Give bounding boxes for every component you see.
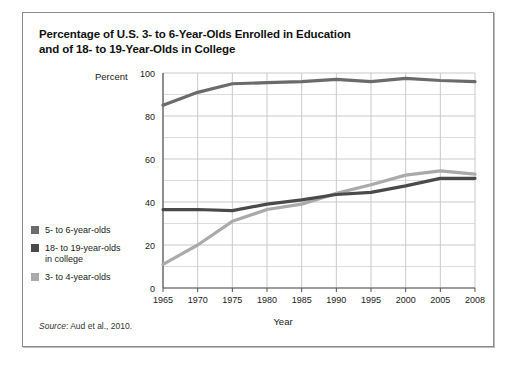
legend-item: 18- to 19-year-olds in college bbox=[31, 243, 163, 265]
x-tick-label: 2005 bbox=[430, 295, 450, 305]
line-chart-svg: 0204060801001965197019751980198519901995… bbox=[23, 13, 495, 348]
chart-series-line bbox=[163, 171, 475, 265]
legend-swatch-icon bbox=[31, 273, 39, 281]
y-tick-label: 40 bbox=[145, 198, 155, 208]
legend-item: 3- to 4-year-olds bbox=[31, 272, 163, 283]
chart-legend: 5- to 6-year-olds 18- to 19-year-olds in… bbox=[31, 225, 163, 290]
legend-item: 5- to 6-year-olds bbox=[31, 225, 163, 236]
y-tick-label: 60 bbox=[145, 155, 155, 165]
source-text: : Aud et al., 2010. bbox=[66, 321, 132, 331]
x-axis-title-text: Year bbox=[273, 316, 292, 327]
legend-swatch-icon bbox=[31, 226, 39, 234]
legend-item-label: 18- to 19-year-olds in college bbox=[45, 243, 121, 265]
x-tick-label: 2008 bbox=[465, 295, 485, 305]
x-tick-label: 1965 bbox=[153, 295, 173, 305]
legend-swatch-icon bbox=[31, 244, 39, 252]
x-tick-label: 1975 bbox=[222, 295, 242, 305]
y-tick-label: 80 bbox=[145, 112, 155, 122]
x-tick-label: 1970 bbox=[188, 295, 208, 305]
x-tick-label: 1980 bbox=[257, 295, 277, 305]
x-tick-label: 1990 bbox=[326, 295, 346, 305]
x-tick-label: 1995 bbox=[361, 295, 381, 305]
figure-frame: Percentage of U.S. 3- to 6-Year-Olds Enr… bbox=[22, 12, 494, 347]
y-tick-label: 100 bbox=[140, 69, 155, 79]
source-label: Source bbox=[39, 321, 66, 331]
x-tick-label: 2000 bbox=[396, 295, 416, 305]
x-tick-label: 1985 bbox=[292, 295, 312, 305]
chart-plot-area: Percent 02040608010019651970197519801985… bbox=[23, 13, 495, 348]
source-note: Source: Aud et al., 2010. bbox=[39, 321, 132, 331]
legend-item-label: 5- to 6-year-olds bbox=[45, 225, 111, 236]
chart-series-line bbox=[163, 178, 475, 210]
legend-item-label: 3- to 4-year-olds bbox=[45, 272, 111, 283]
chart-series-line bbox=[163, 78, 475, 105]
